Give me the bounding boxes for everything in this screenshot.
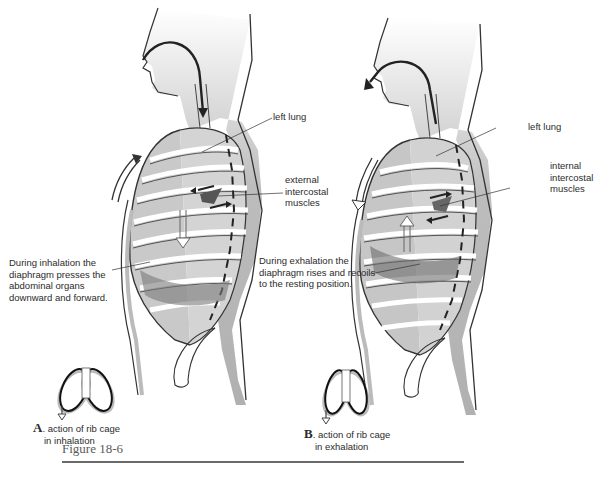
panel-b-figure: [351, 18, 510, 415]
panel-b-muscles-line3: muscles: [550, 183, 593, 195]
panel-b-caption-line1: . action of rib cage: [313, 429, 391, 440]
panel-a-diaphragm-line1: During inhalation the: [9, 257, 108, 269]
panel-a-diaphragm-line4: downward and forward.: [9, 292, 108, 304]
panel-b-caption-line2: in exhalation: [304, 441, 390, 453]
panel-a-muscles-label: external intercostal muscles: [285, 174, 328, 209]
panel-a-caption-line1: . action of rib cage: [42, 423, 120, 434]
panel-a-diaphragm-label: During inhalation the diaphragm presses …: [9, 257, 108, 303]
figure-title: Figure 18-6: [62, 441, 123, 457]
panel-a-muscles-line2: intercostal: [285, 186, 328, 198]
panel-b-caption: B. action of rib cage in exhalation: [304, 428, 390, 453]
panel-b-rib-cage-diagram: [319, 368, 374, 424]
panel-a-rib-cage-diagram: [52, 365, 120, 420]
panel-b-muscles-label: internal intercostal muscles: [550, 160, 593, 195]
panel-b-diaphragm-line3: to the resting position.: [259, 278, 375, 290]
panel-a-lung-label: left lung: [273, 111, 306, 123]
panel-b-diaphragm-line1: During exhalation the: [259, 255, 375, 267]
panel-a-muscles-line3: muscles: [285, 197, 328, 209]
panel-b-diaphragm-label: During exhalation the diaphragm rises an…: [259, 255, 375, 290]
panel-b-muscles-line2: intercostal: [550, 172, 593, 184]
panel-a-figure: [112, 8, 283, 405]
panel-a-muscles-line1: external: [285, 174, 328, 186]
panel-b-muscles-line1: internal: [550, 160, 593, 172]
figure-rule: [62, 461, 464, 463]
panel-b-letter: B: [304, 426, 313, 441]
panel-a-diaphragm-line3: abdominal organs: [9, 280, 108, 292]
respiration-illustration: [0, 0, 600, 483]
panel-b-diaphragm-line2: diaphragm rises and recoils: [259, 267, 375, 279]
panel-a-diaphragm-line2: diaphragm presses the: [9, 269, 108, 281]
panel-a-letter: A: [33, 420, 42, 435]
panel-b-lung-label: left lung: [528, 121, 561, 133]
